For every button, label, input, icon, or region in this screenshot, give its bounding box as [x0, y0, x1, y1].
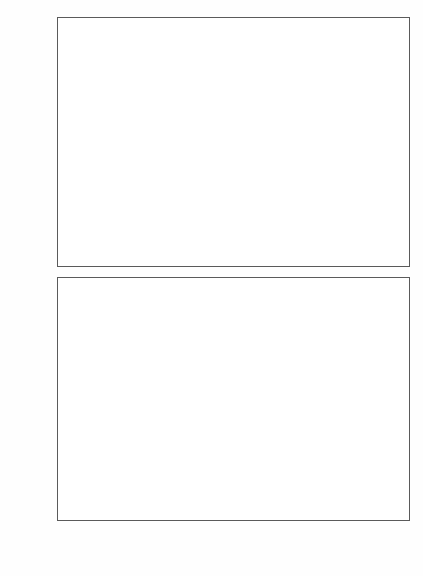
figure-canvas	[0, 0, 423, 576]
bottom-series-plot	[0, 0, 423, 576]
